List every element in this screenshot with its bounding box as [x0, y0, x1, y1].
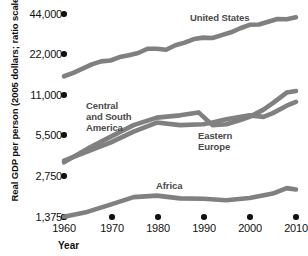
series-label-csa-line1: Central: [86, 100, 132, 111]
series-line-africa: [64, 188, 296, 217]
series-label-eastern-europe: Eastern Europe: [198, 130, 232, 152]
series-label-africa: Africa: [156, 180, 182, 191]
series-line-united-states: [64, 17, 296, 76]
series-label-ee-line1: Eastern: [198, 130, 232, 141]
series-label-csa-line3: America: [86, 122, 132, 133]
gdp-per-person-line-chart: Real GDP per person (2005 dollars; ratio…: [0, 0, 308, 256]
series-label-united-states: United States: [190, 12, 249, 23]
series-label-central-south-america: Central and South America: [86, 100, 132, 133]
plot-area: [0, 0, 308, 256]
series-label-csa-line2: and South: [86, 111, 132, 122]
series-label-ee-line2: Europe: [198, 141, 232, 152]
